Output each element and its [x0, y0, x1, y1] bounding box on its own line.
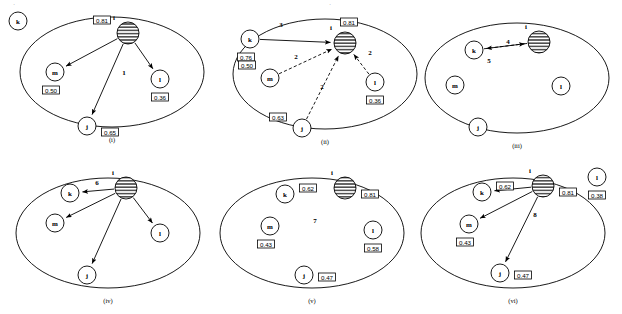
- value-text-m: 0.43: [459, 239, 472, 246]
- node-l[interactable]: l0.58: [364, 221, 382, 252]
- panels-layer: 1ki0.81m0.50l0.36j0.65(i)3222k0.76i0.81m…: [9, 2, 609, 305]
- node-i[interactable]: i: [112, 169, 137, 199]
- edge-i-to-l: [133, 198, 152, 223]
- node-i[interactable]: i0.81: [529, 167, 576, 197]
- node-l[interactable]: l0.36: [366, 73, 384, 104]
- network-diagram-figure: 1ki0.81m0.50l0.36j0.65(i)3222k0.76i0.81m…: [0, 0, 622, 314]
- node-i[interactable]: i: [525, 23, 550, 53]
- node-i-hatched-circle[interactable]: [532, 175, 554, 197]
- node-i-label: i: [529, 167, 531, 175]
- node-j[interactable]: j: [78, 266, 96, 284]
- node-l[interactable]: l0.36: [151, 70, 169, 101]
- value-text-m: 0.50: [241, 62, 254, 69]
- node-l-label: l: [159, 76, 161, 84]
- panel-caption: (i): [109, 136, 115, 144]
- community-ellipse: [421, 178, 605, 288]
- node-m[interactable]: m: [46, 214, 64, 232]
- panel-ii: 3222k0.76i0.81m0.50l0.36j0.63(ii): [233, 18, 417, 146]
- node-k-label: k: [16, 18, 20, 26]
- node-l[interactable]: l: [151, 224, 169, 242]
- panel-iii: 45kimlj(iii): [425, 23, 609, 150]
- panel-caption: (iii): [512, 142, 522, 150]
- node-l[interactable]: l: [552, 77, 570, 95]
- node-m[interactable]: m: [446, 76, 464, 94]
- edge-i-to-j: [92, 44, 123, 115]
- node-j-label: j: [302, 272, 305, 280]
- edge-label-k-i: 3: [279, 21, 283, 29]
- edge-label-i-k: 6: [95, 179, 99, 187]
- node-k[interactable]: k0.62: [473, 182, 514, 201]
- node-i-hatched-circle[interactable]: [117, 22, 139, 44]
- node-m-label: m: [267, 223, 273, 231]
- edge-i-to-k: [82, 189, 114, 192]
- node-j-label: j: [300, 125, 303, 133]
- panel-step-label: 8: [533, 211, 537, 219]
- value-text-k: 0.76: [240, 54, 253, 61]
- panel-step-label: 7: [313, 217, 317, 225]
- value-text-k: 0.62: [302, 185, 315, 192]
- panel-caption: (ii): [321, 138, 329, 146]
- node-i-label: i: [331, 169, 333, 177]
- node-j[interactable]: j: [469, 118, 487, 136]
- value-text-j: 0.63: [272, 114, 285, 121]
- node-m-label: m: [466, 221, 472, 229]
- value-text-j: 0.47: [321, 274, 334, 281]
- node-i-hatched-circle[interactable]: [334, 32, 356, 54]
- value-text-j: 0.47: [517, 272, 530, 279]
- node-k[interactable]: k0.62: [276, 184, 317, 203]
- edge-i-to-j: [506, 197, 538, 262]
- scan-artifact-center: ·: [329, 2, 331, 7]
- node-k[interactable]: k: [465, 41, 483, 59]
- node-m[interactable]: m0.43: [258, 217, 280, 248]
- node-i-label: i: [525, 23, 527, 31]
- node-j-label: j: [476, 124, 479, 132]
- edge-i-to-j: [92, 199, 121, 264]
- value-text-l: 0.36: [154, 94, 167, 101]
- node-i[interactable]: i0.81: [331, 169, 378, 199]
- edge-label-i-k: 4: [506, 38, 510, 46]
- node-k-label: k: [480, 189, 484, 197]
- node-l-label: l: [159, 230, 161, 238]
- node-m[interactable]: m0.43: [457, 215, 479, 246]
- panel-v: 7k0.62i0.81m0.43l0.58j0.47(v): [220, 169, 404, 305]
- node-k[interactable]: k: [61, 184, 79, 202]
- node-l-label: l: [560, 83, 562, 91]
- node-l[interactable]: l0.38: [588, 168, 606, 199]
- node-i-label: i: [330, 24, 332, 32]
- value-text-i: 0.81: [343, 19, 356, 26]
- panel-iv: 6kimlj(iv): [16, 169, 200, 305]
- edge-label-k-i: 5: [487, 57, 491, 65]
- node-i-label: i: [112, 169, 114, 177]
- edge-label-i-j: 1: [122, 69, 126, 77]
- panel-caption: (v): [308, 297, 316, 305]
- node-l-label: l: [596, 174, 598, 182]
- node-k-label: k: [68, 190, 72, 198]
- value-text-k: 0.62: [499, 183, 512, 190]
- node-i-hatched-circle[interactable]: [334, 177, 356, 199]
- edge-label-l-i: 2: [368, 49, 372, 57]
- node-k[interactable]: k0.76: [238, 30, 260, 61]
- value-text-l: 0.58: [367, 245, 380, 252]
- value-text-i: 0.81: [562, 189, 575, 196]
- edge-i-to-l: [135, 43, 153, 69]
- value-text-i: 0.81: [96, 17, 109, 24]
- node-k-label: k: [248, 36, 252, 44]
- node-i[interactable]: i0.81: [330, 18, 357, 54]
- scan-artifact-left: ·: [13, 2, 15, 7]
- node-m[interactable]: m0.50: [239, 61, 280, 87]
- node-i-label: i: [113, 14, 115, 22]
- node-i-hatched-circle[interactable]: [115, 177, 137, 199]
- panel-caption: (iv): [103, 297, 112, 305]
- node-k[interactable]: k: [9, 12, 27, 30]
- node-j[interactable]: j0.47: [491, 264, 532, 282]
- edge-label-j-i: 2: [320, 83, 324, 91]
- node-j[interactable]: j0.47: [295, 266, 336, 284]
- node-m-label: m: [267, 75, 273, 83]
- figure-container: 1ki0.81m0.50l0.36j0.65(i)3222k0.76i0.81m…: [0, 0, 622, 314]
- node-m[interactable]: m0.50: [43, 63, 65, 94]
- panel-caption: (vi): [508, 297, 517, 305]
- value-text-l: 0.38: [591, 192, 604, 199]
- edge-k-to-i: [260, 39, 331, 42]
- node-i-hatched-circle[interactable]: [528, 31, 550, 53]
- value-text-l: 0.36: [369, 97, 382, 104]
